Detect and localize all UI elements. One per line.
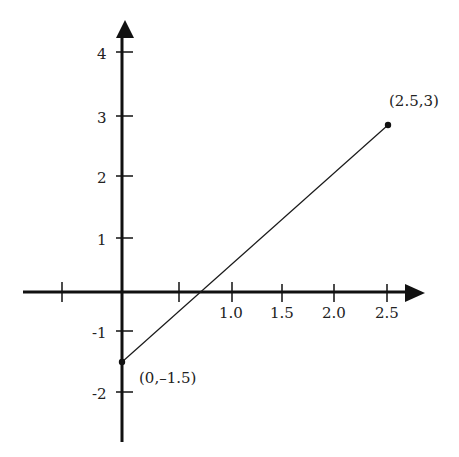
- svg-text:1: 1: [97, 231, 107, 249]
- label-start-point: (0,–1.5): [139, 369, 196, 387]
- svg-text:2.5: 2.5: [375, 304, 399, 322]
- chart-canvas: 1.0 1.5 2.0 2.5 4 3 2 1 -1 -2 (0,–1.5) (…: [0, 0, 459, 457]
- x-tick-labels: 1.0 1.5 2.0 2.5: [219, 304, 399, 322]
- y-axis-arrow-icon: [116, 20, 134, 38]
- label-end-point: (2.5,3): [389, 92, 439, 110]
- svg-text:2: 2: [97, 169, 107, 187]
- svg-text:1.5: 1.5: [270, 304, 294, 322]
- point-start: [119, 359, 125, 365]
- svg-text:3: 3: [97, 109, 107, 127]
- x-axis-arrow-icon: [405, 284, 425, 302]
- point-end: [385, 122, 391, 128]
- svg-text:-1: -1: [92, 324, 107, 342]
- y-tick-labels: 4 3 2 1 -1 -2: [92, 45, 107, 403]
- line-segment: [122, 125, 388, 362]
- y-ticks: [116, 52, 133, 392]
- svg-text:2.0: 2.0: [322, 304, 346, 322]
- svg-text:4: 4: [97, 45, 107, 63]
- svg-text:-2: -2: [92, 385, 107, 403]
- svg-text:1.0: 1.0: [219, 304, 243, 322]
